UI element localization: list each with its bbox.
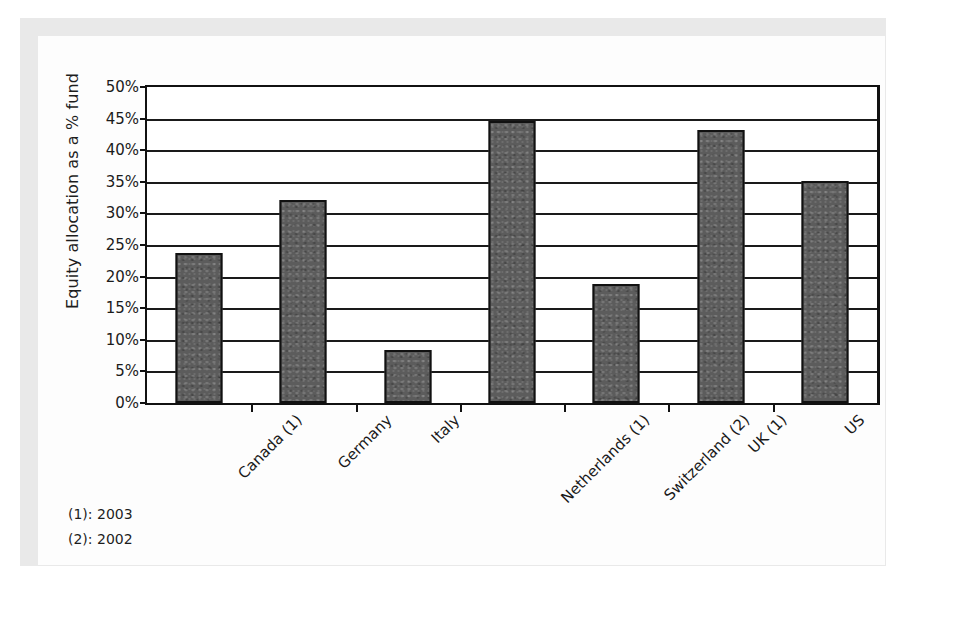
x-axis-label: Switzerland (2) xyxy=(660,411,753,504)
y-tick-label: 35% xyxy=(106,173,139,191)
y-tick-mark xyxy=(140,307,147,309)
x-axis-label: Netherlands (1) xyxy=(557,411,653,507)
bar-slot xyxy=(773,87,877,403)
plot-area: 0%5%10%15%20%25%30%35%40%45%50% xyxy=(145,85,880,405)
bar[interactable] xyxy=(384,350,431,403)
y-tick-label: 25% xyxy=(106,236,139,254)
bar[interactable] xyxy=(176,253,223,403)
bar-slot xyxy=(668,87,772,403)
bar[interactable] xyxy=(593,284,640,403)
y-tick-label: 30% xyxy=(106,204,139,222)
y-tick-mark xyxy=(140,339,147,341)
y-tick-mark xyxy=(140,149,147,151)
bar[interactable] xyxy=(488,121,535,403)
bar-slot xyxy=(460,87,564,403)
x-axis-label: UK (1) xyxy=(745,411,791,457)
y-tick-mark xyxy=(140,212,147,214)
y-tick-mark xyxy=(140,370,147,372)
y-axis-title: Equity allocation as a % fund xyxy=(63,36,87,346)
x-axis-label: Italy xyxy=(428,411,464,447)
bar-chart-figure: Equity allocation as a % fund 0%5%10%15%… xyxy=(38,36,885,565)
page-root: Equity allocation as a % fund 0%5%10%15%… xyxy=(0,0,958,635)
y-tick-mark xyxy=(140,244,147,246)
y-tick-label: 20% xyxy=(106,268,139,286)
footnote: (2): 2002 xyxy=(68,527,133,552)
y-tick-mark xyxy=(140,118,147,120)
bar-slot xyxy=(251,87,355,403)
y-tick-mark xyxy=(140,86,147,88)
x-axis-label: US xyxy=(841,411,868,438)
bar[interactable] xyxy=(697,130,744,403)
y-tick-label: 45% xyxy=(106,110,139,128)
y-tick-mark xyxy=(140,402,147,404)
y-tick-mark xyxy=(140,276,147,278)
footnote: (1): 2003 xyxy=(68,502,133,527)
x-axis-labels: Canada (1)GermanyItalyNetherlands (1)Swi… xyxy=(145,405,880,505)
y-tick-label: 15% xyxy=(106,299,139,317)
y-tick-label: 5% xyxy=(115,362,139,380)
bar-slot xyxy=(147,87,251,403)
bar-slot xyxy=(356,87,460,403)
y-tick-mark xyxy=(140,181,147,183)
bar[interactable] xyxy=(280,200,327,404)
footnotes: (1): 2003(2): 2002 xyxy=(68,502,133,552)
chart-paper: Equity allocation as a % fund 0%5%10%15%… xyxy=(38,36,885,565)
y-tick-label: 50% xyxy=(106,78,139,96)
bar-layer xyxy=(147,87,877,403)
y-tick-label: 0% xyxy=(115,394,139,412)
x-axis-label: Canada (1) xyxy=(234,411,305,482)
bar[interactable] xyxy=(801,181,848,403)
bar-slot xyxy=(564,87,668,403)
y-tick-label: 40% xyxy=(106,141,139,159)
x-axis-label: Germany xyxy=(334,411,395,472)
y-tick-label: 10% xyxy=(106,331,139,349)
